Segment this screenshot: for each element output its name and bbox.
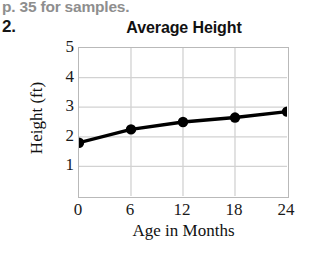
data-point <box>230 112 240 122</box>
worksheet-page: p. 35 for samples. 2. Average Height 123… <box>0 0 319 257</box>
y-axis-tick-label: 4 <box>52 68 74 85</box>
line-chart-svg <box>79 48 287 196</box>
x-axis-tick-label: 18 <box>216 201 252 218</box>
y-axis-tick-label: 2 <box>52 127 74 144</box>
x-axis-tick-label: 6 <box>112 201 148 218</box>
data-point <box>178 117 188 127</box>
x-axis-title: Age in Months <box>78 221 289 241</box>
x-axis-tick-label: 24 <box>268 201 304 218</box>
chart-title: Average Height <box>78 19 290 37</box>
y-axis-tick-label: 3 <box>52 97 74 114</box>
data-point <box>79 138 84 148</box>
x-axis-tick-label: 0 <box>60 201 96 218</box>
plot-area <box>78 47 289 198</box>
y-axis-tick-label: 5 <box>52 38 74 55</box>
y-axis-tick-labels: 12345 <box>48 0 74 257</box>
data-point <box>126 124 136 134</box>
y-axis-title: Height (ft) <box>27 63 47 173</box>
x-axis-tick-label: 12 <box>164 201 200 218</box>
problem-number-label: 2. <box>2 17 16 37</box>
data-point <box>282 106 287 116</box>
y-axis-tick-label: 1 <box>52 156 74 173</box>
